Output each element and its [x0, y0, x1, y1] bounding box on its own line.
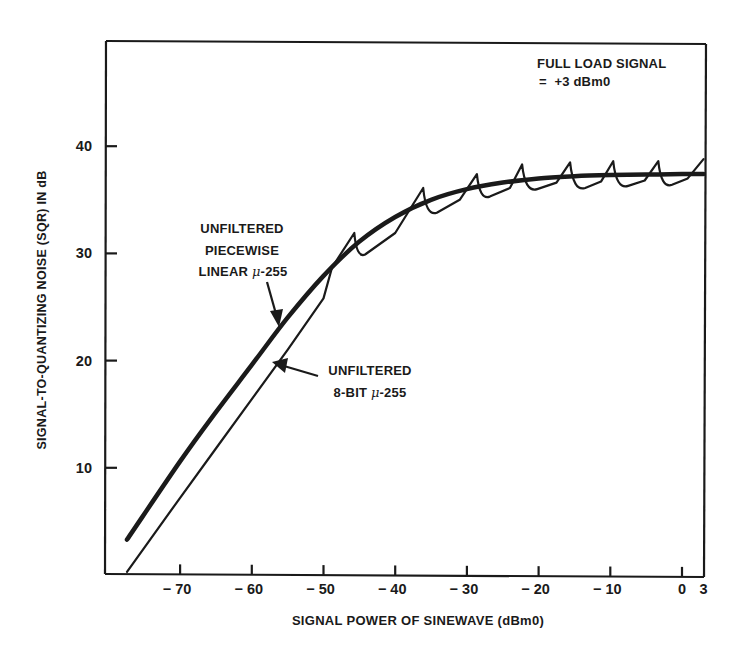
arrow-piecewise [267, 282, 283, 327]
mu-symbol: μ [252, 264, 261, 279]
piecewise-label-line1: UNFILTERED [200, 221, 283, 236]
x-tick-label: − 30 [450, 581, 479, 597]
y-tick-label: 30 [52, 245, 92, 261]
8bit-label-prefix: 8-BIT [334, 385, 371, 400]
piecewise-label-line3: LINEAR μ-255 [199, 264, 288, 279]
x-tick-label: − 60 [234, 581, 263, 597]
piecewise-label-prefix: LINEAR [199, 264, 252, 279]
x-tick-label: 3 [699, 581, 707, 597]
chart-canvas [0, 0, 743, 661]
full-load-annotation-line1: FULL LOAD SIGNAL [537, 56, 666, 71]
y-tick-label: 40 [52, 138, 92, 154]
plot-frame [105, 41, 706, 577]
x-axis-label: SIGNAL POWER OF SINEWAVE (dBm0) [292, 613, 544, 628]
mu-symbol: μ [371, 385, 380, 400]
8bit-label-line1: UNFILTERED [328, 363, 411, 378]
x-tick-label: − 40 [378, 581, 407, 597]
x-tick-label: − 70 [163, 581, 192, 597]
x-tick-label: − 10 [593, 581, 622, 597]
x-tick-label: − 20 [521, 581, 550, 597]
8bit-label-suffix: -255 [380, 385, 407, 400]
y-tick-label: 20 [52, 353, 92, 369]
x-tick-label: − 50 [306, 581, 335, 597]
full-load-annotation-line2: = +3 dBm0 [539, 74, 610, 89]
piecewise-label-suffix: -255 [261, 264, 288, 279]
arrow-8bit [272, 358, 318, 376]
arrowhead-icon [272, 358, 288, 373]
piecewise-label-line2: PIECEWISE [205, 243, 279, 258]
x-tick-label: 0 [678, 581, 686, 597]
8bit-label-line2: 8-BIT μ-255 [334, 385, 407, 400]
y-axis-label: SIGNAL-TO-QUANTIZING NOISE (SQR) IN dB [35, 170, 49, 449]
y-tick-label: 10 [52, 460, 92, 476]
